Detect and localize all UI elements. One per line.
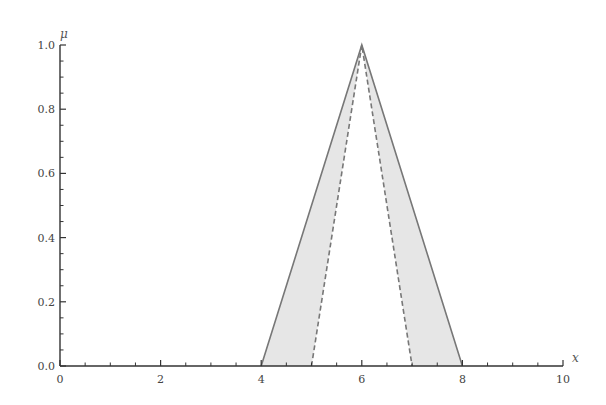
x-tick-label: 0: [57, 373, 64, 386]
y-tick-label: 0.8: [38, 103, 56, 116]
x-tick-label: 2: [157, 373, 164, 386]
shaded-region: [261, 45, 462, 366]
y-axis-label: μ: [60, 27, 68, 41]
x-tick-label: 6: [358, 373, 365, 386]
y-tick-label: 0.2: [38, 296, 56, 309]
y-tick-label: 0.0: [38, 360, 56, 373]
fuzzy-membership-chart: 02468100.00.20.40.60.81.0 x μ: [0, 0, 606, 405]
x-tick-label: 10: [556, 373, 570, 386]
y-tick-label: 0.4: [38, 232, 56, 245]
x-tick-label: 8: [459, 373, 466, 386]
y-tick-label: 1.0: [38, 39, 56, 52]
shaded-area: [261, 45, 462, 366]
x-tick-label: 4: [258, 373, 265, 386]
y-tick-label: 0.6: [38, 167, 56, 180]
x-axis-label: x: [572, 351, 579, 365]
